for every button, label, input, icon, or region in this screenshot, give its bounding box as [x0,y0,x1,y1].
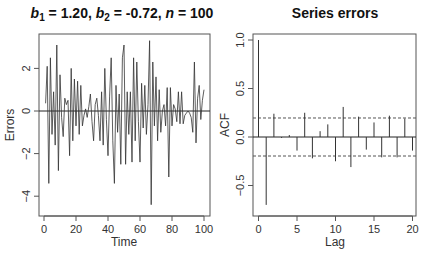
svg-text:100: 100 [195,223,213,235]
svg-text:60: 60 [134,223,146,235]
time-x-axis-label: Time [111,235,138,249]
errors-series-line [46,41,204,205]
svg-text:0: 0 [20,108,32,114]
acf-y-axis-label: ACF [218,113,232,137]
lag-x-axis: 05101520 [255,216,418,235]
lag-x-axis-label: Lag [325,235,345,249]
svg-text:0.0: 0.0 [234,129,246,144]
svg-text:10: 10 [329,223,341,235]
svg-text:2: 2 [20,65,32,71]
svg-text:15: 15 [368,223,380,235]
svg-text:0: 0 [41,223,47,235]
acf-bars [259,40,413,205]
svg-text:5: 5 [294,223,300,235]
svg-text:40: 40 [102,223,114,235]
chart-figure: b1 = 1.20, b2 = -0.72, n = 100 020406080… [0,0,428,258]
svg-text:−0.5: −0.5 [234,175,246,197]
time-series-title: b1 = 1.20, b2 = -0.72, n = 100 [31,5,214,23]
acf-plot-frame [253,34,416,216]
svg-text:80: 80 [166,223,178,235]
time-series-panel: b1 = 1.20, b2 = -0.72, n = 100 020406080… [3,5,214,249]
acf-title: Series errors [292,5,379,21]
errors-y-axis-label: Errors [3,109,17,142]
svg-text:0: 0 [255,223,261,235]
acf-y-axis: −0.50.00.51.0 [234,32,253,196]
svg-text:0.5: 0.5 [234,81,246,96]
svg-text:−2: −2 [20,147,32,160]
errors-y-axis: −4−202 [20,65,39,202]
time-x-axis: 020406080100 [41,216,213,235]
acf-panel: Series errors 05101520 −0.50.00.51.0 Lag… [218,5,419,249]
svg-text:20: 20 [406,223,418,235]
svg-text:−4: −4 [20,190,32,203]
svg-text:1.0: 1.0 [234,32,246,47]
svg-text:20: 20 [70,223,82,235]
